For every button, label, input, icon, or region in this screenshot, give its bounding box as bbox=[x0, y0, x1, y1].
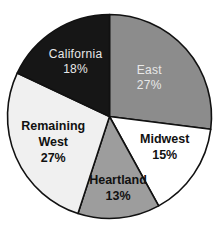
slice-value-remaining-west: 27% bbox=[41, 151, 66, 165]
slice-value-midwest: 15% bbox=[152, 148, 177, 162]
pie-chart: East27%Midwest15%Heartland13%RemainingWe… bbox=[0, 0, 219, 226]
slice-value-california: 18% bbox=[63, 62, 88, 76]
slice-value-heartland: 13% bbox=[106, 189, 131, 203]
slice-label-heartland: Heartland bbox=[89, 173, 147, 187]
slice-label-midwest: Midwest bbox=[140, 132, 190, 146]
slice-label-california: California bbox=[49, 47, 103, 61]
slice-label-remaining-west: West bbox=[38, 135, 68, 149]
slice-label-east: East bbox=[137, 63, 163, 77]
slice-value-east: 27% bbox=[137, 78, 162, 92]
slice-label-remaining-west: Remaining bbox=[21, 119, 85, 133]
